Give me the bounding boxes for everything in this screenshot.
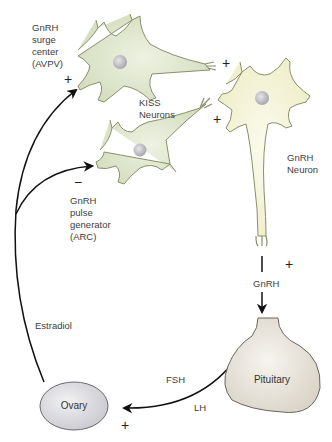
pituitary-shape xyxy=(225,318,320,413)
pituitary-label: Pituitary xyxy=(240,374,304,385)
surge-center-sign: + xyxy=(64,72,72,86)
pulse-generator-sign: − xyxy=(74,175,82,189)
estradiol-to-surge-arrow xyxy=(15,90,76,382)
synapse-sign-upper: + xyxy=(222,56,230,70)
kiss-neuron-upper xyxy=(78,14,216,102)
gnrh-neuron-label: GnRH Neuron xyxy=(287,152,318,176)
lh-label: LH xyxy=(194,402,206,414)
estradiol-label: Estradiol xyxy=(35,320,72,332)
kiss-neurons-label: KISS Neurons xyxy=(139,97,175,121)
ovary-label: Ovary xyxy=(40,400,108,411)
pulse-generator-label: GnRH pulse generator (ARC) xyxy=(70,195,111,243)
gnrh-edge-label: GnRH xyxy=(253,278,279,290)
fsh-label: FSH xyxy=(166,374,185,386)
synapse-sign-lower: + xyxy=(213,112,221,126)
pituitary-sign: + xyxy=(285,257,293,271)
ovary-sign: + xyxy=(121,418,129,432)
surge-center-label: GnRH surge center (AVPV) xyxy=(32,22,63,70)
